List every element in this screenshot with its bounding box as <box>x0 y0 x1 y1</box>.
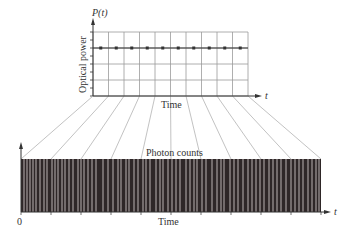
bottom-x-axis-label: Time <box>158 216 179 227</box>
photon-counting-diagram: P(t) Optical power Time t Photon counts … <box>0 0 351 235</box>
optical-power-grid <box>90 32 248 96</box>
optical-power-axes <box>91 18 262 98</box>
origin-label: 0 <box>17 216 22 227</box>
y-arrow-icon <box>91 18 95 25</box>
y-arrow-icon <box>19 142 23 149</box>
top-x-axis-label: Time <box>161 99 182 110</box>
x-arrow-icon <box>324 210 331 214</box>
photon-counts-title: Photon counts <box>146 147 203 158</box>
photon-count-band <box>21 159 321 212</box>
power-symbol: P(t) <box>91 7 108 19</box>
y-axis-label: Optical power <box>77 35 88 93</box>
x-arrow-icon <box>255 94 262 98</box>
top-t-symbol: t <box>265 90 268 101</box>
bottom-t-symbol: t <box>334 206 337 217</box>
